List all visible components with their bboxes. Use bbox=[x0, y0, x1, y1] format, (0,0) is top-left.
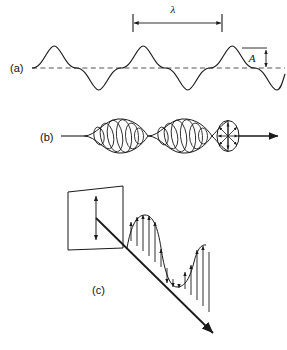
panel-b-label: (b) bbox=[40, 131, 53, 143]
random-polarization-disc bbox=[217, 121, 239, 152]
figure-canvas: (a) λ A (b) bbox=[0, 0, 287, 350]
figure-background bbox=[0, 0, 287, 350]
panel-c-label: (c) bbox=[92, 284, 105, 296]
wavelength-symbol-label: λ bbox=[170, 3, 176, 15]
amplitude-symbol-label: A bbox=[248, 52, 256, 64]
physics-wave-figure: (a) λ A (b) bbox=[0, 0, 287, 350]
panel-a-label: (a) bbox=[10, 62, 23, 74]
